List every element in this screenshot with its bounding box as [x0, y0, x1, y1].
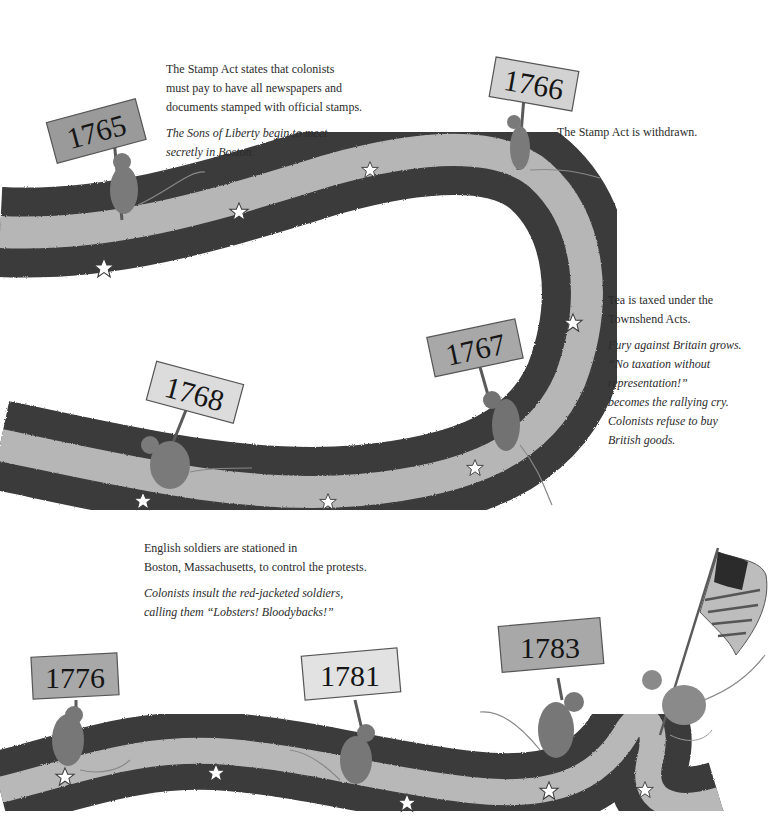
caption-1768: English soldiers are stationed in Boston… — [144, 539, 404, 629]
caption-1766-fact: The Stamp Act is withdrawn. — [557, 123, 757, 142]
caption-1766: The Stamp Act is withdrawn. — [557, 123, 757, 149]
sign-1783: 1783 — [498, 618, 604, 700]
caption-1768-fact: English soldiers are stationed in Boston… — [144, 539, 404, 577]
mouse-figure — [480, 692, 584, 758]
caption-1765-note: The Sons of Liberty begin to meet secret… — [166, 124, 406, 162]
svg-text:1776: 1776 — [45, 661, 105, 694]
sign-1776: 1776 — [31, 653, 119, 715]
caption-1765-fact: The Stamp Act states that colonists must… — [166, 60, 406, 117]
caption-1765: The Stamp Act states that colonists must… — [166, 60, 406, 169]
caption-1767: Tea is taxed under the Townshend Acts. F… — [608, 291, 778, 457]
caption-1768-note: Colonists insult the red-jacketed soldie… — [144, 584, 404, 622]
sign-1781: 1781 — [301, 648, 400, 730]
caption-1767-fact: Tea is taxed under the Townshend Acts. — [608, 291, 778, 329]
svg-text:1781: 1781 — [320, 659, 380, 692]
caption-1767-note: Fury against Britain grows. “No taxation… — [608, 336, 778, 450]
svg-text:1783: 1783 — [520, 631, 580, 664]
